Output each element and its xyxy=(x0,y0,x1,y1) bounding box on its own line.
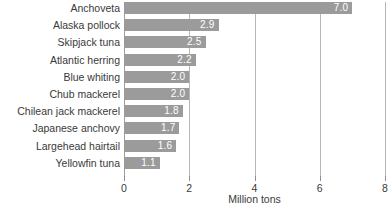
category-label: Largehead hairtail xyxy=(0,140,120,152)
bar-value-label: 7.0 xyxy=(124,2,352,14)
bar-value-label: 1.6 xyxy=(124,140,176,152)
bar-value-label: 2.0 xyxy=(124,88,189,100)
category-label: Chilean jack mackerel xyxy=(0,105,120,117)
bar-row: 1.1 xyxy=(124,157,385,169)
bar-row: 7.0 xyxy=(124,2,385,14)
bar-value-label: 2.0 xyxy=(124,71,189,83)
bar-row: 1.8 xyxy=(124,105,385,117)
bar-value-label: 1.7 xyxy=(124,122,179,134)
x-tick-mark-6 xyxy=(320,176,321,181)
bar-row: 2.5 xyxy=(124,36,385,48)
category-label: Japanese anchovy xyxy=(0,122,120,134)
category-label: Skipjack tuna xyxy=(0,36,120,48)
bar-value-label: 2.9 xyxy=(124,19,219,31)
bar-row: 1.6 xyxy=(124,140,385,152)
bar-value-label: 1.1 xyxy=(124,157,160,169)
category-axis-labels: AnchovetaAlaska pollockSkipjack tunaAtla… xyxy=(0,2,120,176)
x-tick-mark-4 xyxy=(255,176,256,181)
gridline-8 xyxy=(385,2,386,176)
category-label: Chub mackerel xyxy=(0,88,120,100)
category-label: Yellowfin tuna xyxy=(0,157,120,169)
bar-row: 2.9 xyxy=(124,19,385,31)
x-tick-mark-8 xyxy=(385,176,386,181)
bar-chart: AnchovetaAlaska pollockSkipjack tunaAtla… xyxy=(0,0,390,206)
x-axis-title: Million tons xyxy=(124,193,385,205)
bar-row: 2.0 xyxy=(124,88,385,100)
bar-value-label: 2.2 xyxy=(124,54,196,66)
bar-row: 2.0 xyxy=(124,71,385,83)
bar-rows: 7.02.92.52.22.02.01.81.71.61.1 xyxy=(124,2,385,176)
bar-value-label: 2.5 xyxy=(124,36,206,48)
bar-value-label: 1.8 xyxy=(124,105,183,117)
category-label: Alaska pollock xyxy=(0,19,120,31)
category-label: Anchoveta xyxy=(0,2,120,14)
bar-row: 1.7 xyxy=(124,122,385,134)
plot-area: 7.02.92.52.22.02.01.81.71.61.1 xyxy=(124,2,385,176)
category-label: Atlantic herring xyxy=(0,54,120,66)
x-tick-mark-0 xyxy=(124,176,125,181)
bar-row: 2.2 xyxy=(124,54,385,66)
x-tick-mark-2 xyxy=(189,176,190,181)
category-label: Blue whiting xyxy=(0,71,120,83)
